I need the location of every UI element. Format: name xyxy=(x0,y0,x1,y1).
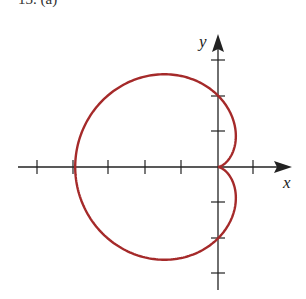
x-axis-label: x xyxy=(282,173,291,192)
y-axis-label: y xyxy=(197,32,207,51)
cardioid-plot: x y xyxy=(0,0,306,299)
